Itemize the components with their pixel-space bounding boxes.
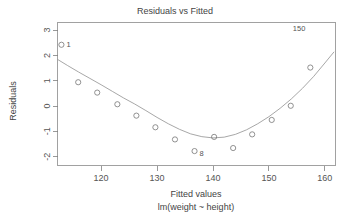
data-point [231,145,236,150]
point-label: 8 [200,149,204,158]
data-point [76,80,81,85]
point-label: 150 [293,24,306,33]
data-point [115,102,120,107]
data-point [95,90,100,95]
data-point [308,65,313,70]
page-title: Residuals vs Fitted [137,6,213,16]
y-axis-title: Residuals [8,81,18,121]
data-point [250,132,255,137]
y-tick-label: 1 [42,78,52,83]
x-axis-ticks [101,166,325,171]
chart-canvas: Residuals vs Fitted 120130140150160 -2-1… [0,0,350,224]
residuals-vs-fitted-plot: Residuals vs Fitted 120130140150160 -2-1… [0,0,350,224]
data-point [269,117,274,122]
x-axis-title: Fitted values [170,189,222,199]
smoother-group [58,52,334,138]
x-tick-label: 160 [317,173,332,183]
point-labels: 11508 [66,24,305,158]
chart-title-group: Residuals vs Fitted [137,6,213,16]
y-tick-label: 2 [42,53,52,58]
x-axis-tick-labels: 120130140150160 [94,173,333,183]
x-tick-label: 120 [94,173,109,183]
x-tick-label: 150 [261,173,276,183]
y-axis-tick-labels: -2-10123 [42,28,52,161]
point-label: 1 [66,40,70,49]
data-point [212,134,217,139]
data-point [288,103,293,108]
scatter-points [59,42,313,154]
data-point [134,113,139,118]
x-tick-label: 140 [205,173,220,183]
loess-smoother-line [58,52,334,138]
data-point [153,125,158,130]
x-tick-label: 130 [150,173,165,183]
data-point [192,148,197,153]
y-tick-label: -2 [42,153,52,161]
data-point [172,137,177,142]
data-point [59,42,64,47]
y-tick-label: 3 [42,28,52,33]
y-axis-ticks [53,30,58,157]
y-tick-label: -1 [42,127,52,135]
axis-titles: Fitted values lm(weight ~ height) Residu… [8,81,234,212]
x-axis-subtitle: lm(weight ~ height) [158,202,234,212]
y-tick-label: 0 [42,104,52,109]
